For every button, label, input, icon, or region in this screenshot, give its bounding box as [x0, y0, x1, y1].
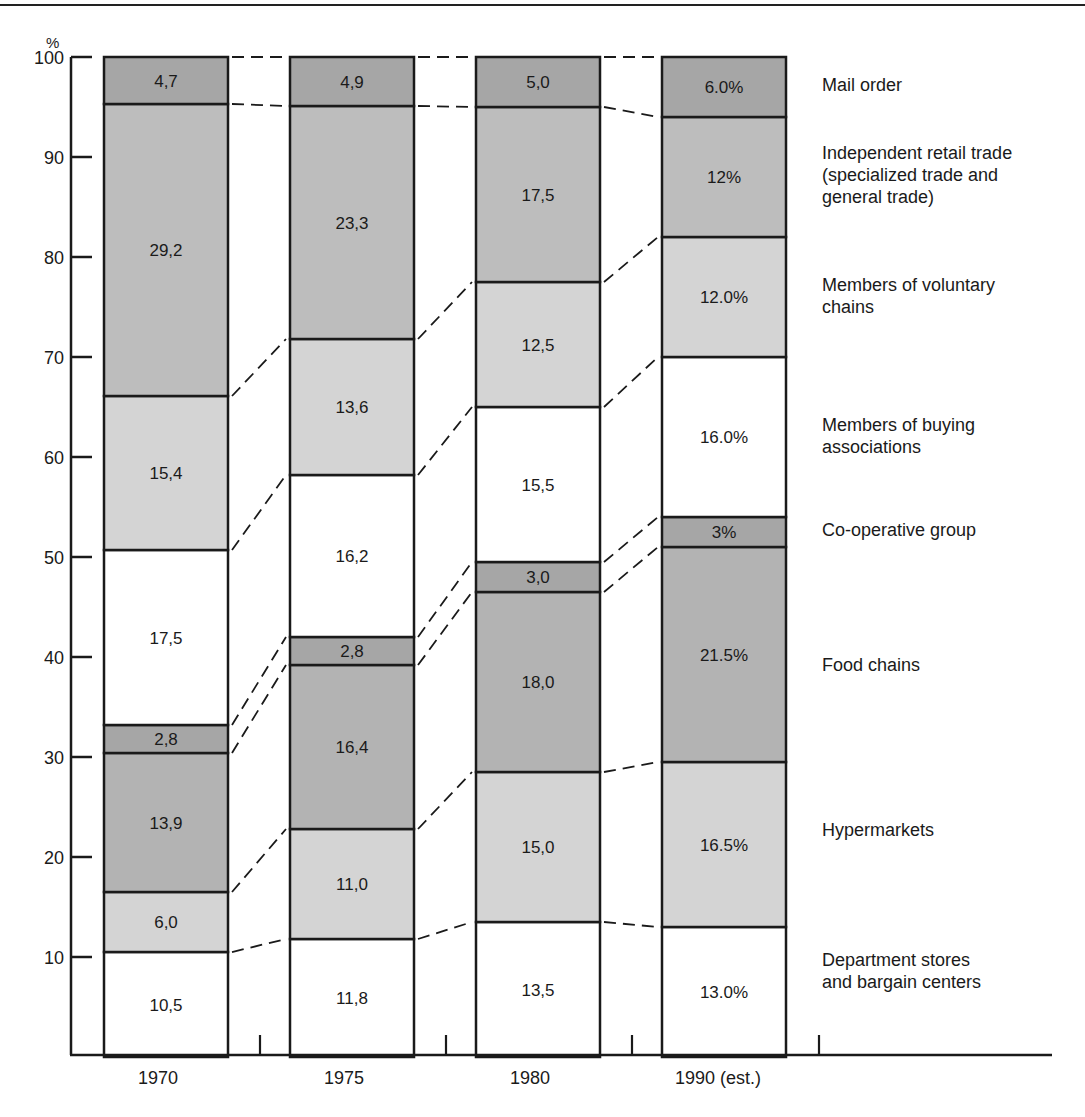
connector-line	[232, 829, 286, 892]
connector-line	[418, 592, 472, 665]
y-tick-label: 40	[44, 648, 64, 668]
legend-label: chains	[822, 296, 995, 318]
x-label-1975: 1975	[324, 1068, 364, 1089]
segment-value-label: 16,4	[335, 738, 368, 757]
legend-buying-associations: Members of buying associations	[822, 414, 975, 458]
connector-line	[232, 475, 286, 550]
segment-value-label: 5,0	[526, 73, 550, 92]
legend-food-chains: Food chains	[822, 654, 920, 676]
connector-line	[232, 637, 286, 725]
bar-1980: 13,515,018,03,015,512,517,55,0	[476, 57, 600, 1057]
legend-label: Members of voluntary	[822, 274, 995, 296]
segment-value-label: 2,8	[154, 730, 178, 749]
legend-label: Mail order	[822, 74, 902, 96]
connector-line	[604, 107, 658, 117]
y-tick-label: 90	[44, 148, 64, 168]
bar-1975: 11,811,016,42,816,213,623,34,9	[290, 57, 414, 1057]
connector-line	[604, 922, 658, 927]
y-tick-label: 50	[44, 548, 64, 568]
x-label-1990: 1990 (est.)	[675, 1068, 761, 1089]
connector-line	[604, 237, 658, 282]
legend-label: (specialized trade and	[822, 164, 1012, 186]
connector-line	[418, 922, 472, 939]
segment-value-label: 13,5	[521, 981, 554, 1000]
segment-value-label: 11,0	[336, 875, 368, 894]
segment-value-label: 15,5	[521, 476, 554, 495]
segment-value-label: 3,0	[526, 568, 550, 587]
legend-label: associations	[822, 436, 975, 458]
segment-value-label: 10,5	[149, 996, 182, 1015]
bar-1970: 10,56,013,92,817,515,429,24,7	[104, 57, 228, 1057]
y-tick-label: 10	[44, 948, 64, 968]
segment-value-label: 15,0	[521, 838, 554, 857]
segment-value-label: 15,4	[149, 464, 182, 483]
segment-value-label: 16.0%	[700, 428, 748, 447]
connector-line	[604, 547, 658, 592]
segment-value-label: 29,2	[149, 241, 182, 260]
bar-1990: 13.0%16.5%21.5%3%16.0%12.0%12%6.0%	[662, 57, 786, 1057]
segment-value-label: 16.5%	[700, 836, 748, 855]
segment-value-label: 17,5	[149, 629, 182, 648]
connector-line	[604, 357, 658, 407]
y-tick-label: 70	[44, 348, 64, 368]
segment-value-label: 6,0	[154, 913, 178, 932]
legend-label: Food chains	[822, 654, 920, 676]
legend-label: Department stores	[822, 949, 981, 971]
x-label-1970: 1970	[138, 1068, 178, 1089]
x-label-1980: 1980	[510, 1068, 550, 1089]
segment-value-label: 3%	[712, 523, 737, 542]
segment-value-label: 12%	[707, 168, 741, 187]
legend-label: and bargain centers	[822, 971, 981, 993]
segment-value-label: 13,9	[149, 814, 182, 833]
connector-line	[418, 562, 472, 637]
legend-mail-order: Mail order	[822, 74, 902, 96]
legend-label: general trade)	[822, 186, 1012, 208]
segment-value-label: 6.0%	[705, 78, 744, 97]
y-tick-label: 100	[34, 48, 64, 68]
segment-value-label: 4,7	[154, 72, 178, 91]
segment-value-label: 13,6	[335, 398, 368, 417]
segment-value-label: 17,5	[521, 186, 554, 205]
bars: 10,56,013,92,817,515,429,24,711,811,016,…	[104, 57, 786, 1057]
legend-hypermarkets: Hypermarkets	[822, 819, 934, 841]
connector-line	[418, 772, 472, 829]
segment-value-label: 13.0%	[700, 983, 748, 1002]
segment-value-label: 12.0%	[700, 288, 748, 307]
legend-independent-retail: Independent retail trade (specialized tr…	[822, 142, 1012, 208]
connector-line	[232, 339, 286, 396]
connector-line	[232, 104, 286, 106]
y-tick-label: 80	[44, 248, 64, 268]
legend-voluntary-chains: Members of voluntary chains	[822, 274, 995, 318]
legend-department-stores: Department stores and bargain centers	[822, 949, 981, 993]
connector-line	[418, 106, 472, 107]
legend-label: Independent retail trade	[822, 142, 1012, 164]
y-tick-label: 20	[44, 848, 64, 868]
segment-value-label: 21.5%	[700, 646, 748, 665]
y-unit-label: %	[46, 34, 59, 51]
y-tick-label: 60	[44, 448, 64, 468]
legend-co-operative-group: Co-operative group	[822, 519, 976, 541]
connector-line	[604, 517, 658, 562]
legend-label: Co-operative group	[822, 519, 976, 541]
connector-line	[418, 407, 472, 475]
segment-value-label: 12,5	[521, 336, 554, 355]
segment-value-label: 16,2	[335, 547, 368, 566]
segment-value-label: 2,8	[340, 642, 364, 661]
segment-value-label: 11,8	[336, 989, 368, 1008]
connector-line	[604, 762, 658, 772]
y-tick-label: 30	[44, 748, 64, 768]
legend-label: Hypermarkets	[822, 819, 934, 841]
segment-value-label: 23,3	[335, 214, 368, 233]
connector-line	[232, 939, 286, 952]
segment-value-label: 4,9	[340, 73, 364, 92]
connector-line	[232, 665, 286, 753]
legend-label: Members of buying	[822, 414, 975, 436]
connector-line	[418, 282, 472, 339]
segment-value-label: 18,0	[521, 673, 554, 692]
